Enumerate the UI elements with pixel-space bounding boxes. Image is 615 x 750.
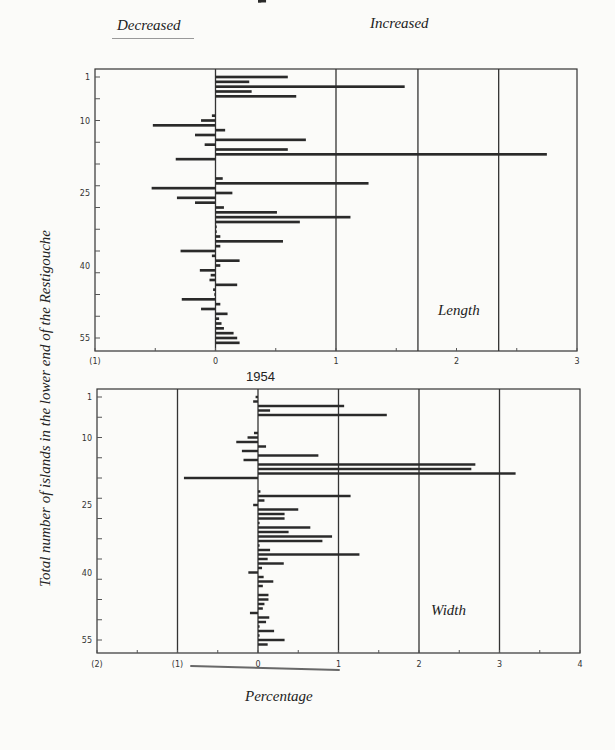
width-bar <box>258 463 475 465</box>
length-x-tick-label: 2 <box>454 357 459 366</box>
length-x-tick-label: 3 <box>574 357 579 366</box>
width-bar <box>258 490 260 492</box>
length-bar <box>216 182 369 185</box>
length-bar <box>216 216 351 219</box>
length-bar <box>216 240 283 243</box>
length-bar <box>216 327 224 330</box>
width-bar <box>258 621 266 623</box>
length-bar <box>200 269 216 272</box>
length-bar <box>216 313 228 316</box>
width-x-tick-label: (2) <box>91 660 102 669</box>
width-bar <box>236 441 258 443</box>
width-bar <box>258 630 274 632</box>
width-y-tick-label: 55 <box>82 636 92 645</box>
width-y-tick-label: 1 <box>87 393 92 402</box>
width-bar <box>258 585 263 587</box>
length-bar <box>216 332 234 335</box>
length-bar <box>216 322 222 325</box>
width-y-tick-label: 10 <box>82 434 92 443</box>
width-bar <box>258 576 264 578</box>
length-bar <box>205 143 216 146</box>
length-y-tick-label: 1 <box>85 73 90 82</box>
width-bar <box>184 477 258 479</box>
width-bar <box>258 405 344 407</box>
length-x-tick-label: 0 <box>213 357 218 366</box>
length-bar <box>216 206 224 209</box>
width-bar <box>258 549 270 551</box>
length-bar <box>182 298 216 301</box>
length-bar <box>216 81 250 84</box>
length-bar <box>216 177 223 180</box>
length-bar <box>216 85 405 88</box>
width-x-tick-label: (1) <box>172 660 183 669</box>
length-bar <box>216 129 226 132</box>
width-bar <box>256 396 258 398</box>
chart-canvas: 110254055(1)0123110254055(2)(1)01234 <box>0 0 615 750</box>
length-x-tick-label: 1 <box>333 357 338 366</box>
length-bar <box>211 274 216 277</box>
length-bar <box>216 139 306 142</box>
length-bar <box>201 308 215 311</box>
length-bar <box>195 134 215 137</box>
width-bar <box>258 526 310 528</box>
width-bar <box>258 517 285 519</box>
width-bar <box>258 499 264 501</box>
width-x-tick-label: 4 <box>577 660 582 669</box>
length-bar <box>214 293 215 296</box>
width-bar <box>258 522 260 524</box>
width-bar <box>258 468 471 470</box>
length-bar <box>176 158 216 161</box>
width-bar <box>258 535 332 537</box>
length-bar <box>216 221 300 224</box>
length-bar <box>216 226 217 229</box>
length-bar <box>216 211 277 214</box>
width-bar <box>258 495 351 497</box>
width-y-tick-label: 40 <box>82 569 92 578</box>
length-bar <box>216 303 221 306</box>
length-bar <box>216 284 238 287</box>
width-bar <box>253 504 258 506</box>
length-y-tick-label: 25 <box>80 189 90 198</box>
length-bar <box>153 124 216 127</box>
width-bar <box>258 639 285 641</box>
length-bar <box>216 342 240 345</box>
width-bar <box>258 544 260 546</box>
width-bar <box>258 445 266 447</box>
width-bar <box>258 567 262 569</box>
width-bar <box>258 625 260 627</box>
length-bar <box>216 337 238 340</box>
width-bar <box>258 508 298 510</box>
length-bar <box>212 114 216 117</box>
length-bar <box>216 76 288 79</box>
length-bar <box>216 317 220 320</box>
length-bar <box>212 255 216 258</box>
width-bar <box>258 603 264 605</box>
length-bar <box>201 119 215 122</box>
width-bar <box>244 459 258 461</box>
width-x-tick-label: 1 <box>336 660 341 669</box>
length-bar <box>216 230 217 233</box>
length-bar <box>152 187 216 190</box>
width-bar <box>258 594 268 596</box>
width-bar <box>258 558 268 560</box>
width-x-tick-label: 2 <box>416 660 421 669</box>
width-x-tick-label: 3 <box>497 660 502 669</box>
width-bar <box>258 409 270 411</box>
length-bar <box>216 264 221 267</box>
width-bar <box>258 540 322 542</box>
width-bar <box>258 454 318 456</box>
length-bar <box>216 192 233 195</box>
length-y-tick-label: 10 <box>80 117 90 126</box>
length-bar <box>177 197 216 200</box>
width-bar <box>250 612 258 614</box>
width-bar <box>258 580 273 582</box>
length-bar <box>216 245 221 248</box>
width-bar <box>253 400 258 402</box>
width-bar <box>258 634 260 636</box>
width-bar <box>258 472 516 474</box>
length-x-tick-label: (1) <box>89 357 100 366</box>
width-bar <box>248 571 258 573</box>
width-bar <box>254 432 258 434</box>
length-y-tick-label: 55 <box>80 334 90 343</box>
length-bar <box>216 153 547 156</box>
